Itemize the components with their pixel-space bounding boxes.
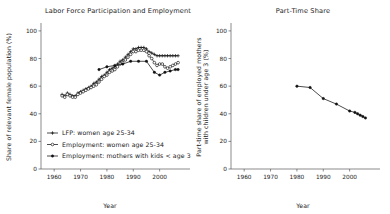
left-x-axis-label: Year bbox=[102, 202, 117, 209]
legend-label: LFP: women age 25-34 bbox=[62, 129, 135, 137]
data-point-circle bbox=[113, 68, 116, 71]
data-point-filled-circle bbox=[137, 60, 140, 63]
data-point-circle bbox=[103, 75, 106, 78]
data-point-filled-circle bbox=[362, 115, 365, 118]
data-point-filled-circle bbox=[158, 74, 161, 77]
x-tick-label: 2000 bbox=[152, 174, 167, 180]
x-tick-label: 1970 bbox=[263, 174, 278, 180]
data-point-filled-circle bbox=[356, 113, 359, 116]
figure-container: Labor Force Participation and Employment… bbox=[0, 0, 390, 214]
left-data-series bbox=[60, 46, 179, 99]
data-point-filled-circle bbox=[309, 86, 312, 89]
data-point-circle bbox=[71, 96, 74, 99]
data-point-circle bbox=[174, 63, 177, 66]
data-point-circle bbox=[82, 90, 85, 93]
data-point-circle bbox=[156, 64, 159, 67]
data-point-circle bbox=[150, 57, 153, 60]
data-point-circle bbox=[148, 54, 151, 57]
data-point-circle bbox=[140, 49, 143, 52]
data-point-circle bbox=[100, 78, 103, 81]
right-panel: Part-Time Share Part-time share of emplo… bbox=[195, 7, 380, 209]
y-tick-label: 20 bbox=[220, 138, 228, 144]
y-tick-label: 40 bbox=[220, 111, 228, 117]
data-point-circle bbox=[69, 94, 72, 97]
data-point-circle bbox=[135, 50, 138, 53]
data-point-circle bbox=[95, 83, 98, 86]
legend-label: Employment: women age 25-34 bbox=[62, 141, 164, 149]
data-point-circle bbox=[129, 53, 132, 56]
data-point-circle bbox=[51, 143, 54, 146]
data-point-circle bbox=[106, 74, 109, 77]
right-chart-title: Part-Time Share bbox=[276, 7, 330, 15]
data-point-filled-circle bbox=[296, 85, 299, 88]
data-point-circle bbox=[66, 93, 69, 96]
y-tick-label: 0 bbox=[33, 166, 37, 172]
x-tick-label: 2000 bbox=[342, 174, 357, 180]
left-y-axis-label: Share of relevant female population (%) bbox=[5, 33, 13, 161]
data-point-filled-circle bbox=[354, 111, 357, 114]
y-tick-label: 40 bbox=[30, 111, 38, 117]
x-tick-label: 1990 bbox=[126, 174, 141, 180]
data-point-filled-circle bbox=[145, 60, 148, 63]
data-point-circle bbox=[177, 61, 180, 64]
data-point-filled-circle bbox=[348, 110, 351, 113]
right-x-axis-label: Year bbox=[295, 202, 310, 209]
data-point-circle bbox=[169, 65, 172, 68]
data-point-filled-circle bbox=[177, 68, 180, 71]
data-point-circle bbox=[98, 81, 101, 84]
y-tick-label: 100 bbox=[216, 28, 227, 34]
left-legend: LFP: women age 25-34Employment: women ag… bbox=[47, 129, 191, 160]
y-tick-label: 80 bbox=[30, 56, 38, 62]
data-point-circle bbox=[145, 50, 148, 53]
data-point-circle bbox=[137, 49, 140, 52]
data-point-filled-circle bbox=[153, 71, 156, 74]
data-point-circle bbox=[166, 67, 169, 70]
data-point-filled-circle bbox=[335, 103, 338, 106]
data-point-plus bbox=[51, 131, 54, 134]
left-panel: Labor Force Participation and Employment… bbox=[5, 7, 191, 209]
data-point-plus bbox=[176, 54, 179, 57]
data-point-filled-circle bbox=[364, 117, 367, 120]
data-point-filled-circle bbox=[121, 63, 124, 66]
data-point-filled-circle bbox=[114, 64, 117, 67]
data-point-circle bbox=[84, 89, 87, 92]
data-point-filled-circle bbox=[169, 70, 172, 73]
legend-label: Employment: mothers with kids < age 3 bbox=[62, 152, 191, 160]
data-point-circle bbox=[79, 92, 82, 95]
left-chart-title: Labor Force Participation and Employment bbox=[45, 7, 191, 15]
data-point-circle bbox=[90, 86, 93, 89]
x-tick-label: 1980 bbox=[100, 174, 115, 180]
x-tick-label: 1960 bbox=[47, 174, 62, 180]
x-tick-label: 1980 bbox=[290, 174, 305, 180]
y-tick-label: 60 bbox=[30, 83, 38, 89]
left-x-axis: 19601970198019902000 bbox=[41, 169, 190, 180]
data-point-filled-circle bbox=[51, 155, 54, 158]
x-tick-label: 1970 bbox=[73, 174, 88, 180]
data-point-circle bbox=[161, 63, 164, 66]
data-point-circle bbox=[63, 96, 66, 99]
series-line-1 bbox=[62, 50, 178, 97]
right-x-axis: 19601970198019902000 bbox=[231, 169, 380, 180]
data-point-circle bbox=[132, 50, 135, 53]
data-point-filled-circle bbox=[322, 97, 325, 100]
data-point-circle bbox=[111, 70, 114, 73]
data-point-circle bbox=[153, 61, 156, 64]
data-point-circle bbox=[171, 64, 174, 67]
data-point-circle bbox=[164, 65, 167, 68]
data-point-circle bbox=[116, 65, 119, 68]
data-point-circle bbox=[74, 96, 77, 99]
right-y-axis-label-line2: with children under age 3 (%) bbox=[202, 50, 210, 145]
x-tick-label: 1990 bbox=[316, 174, 331, 180]
data-point-filled-circle bbox=[174, 68, 177, 71]
x-tick-label: 1960 bbox=[237, 174, 252, 180]
data-point-circle bbox=[61, 94, 64, 97]
data-point-circle bbox=[92, 85, 95, 88]
y-tick-label: 0 bbox=[223, 166, 227, 172]
right-y-axis: 020406080100 bbox=[216, 23, 231, 172]
data-point-filled-circle bbox=[164, 71, 167, 74]
data-point-filled-circle bbox=[359, 114, 362, 117]
left-y-axis: 020406080100 bbox=[26, 23, 41, 172]
series-line-0 bbox=[62, 47, 178, 95]
data-point-circle bbox=[142, 49, 145, 52]
data-point-circle bbox=[127, 56, 130, 59]
